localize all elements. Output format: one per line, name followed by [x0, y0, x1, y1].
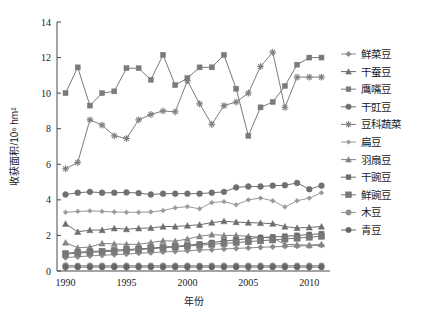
data-point-marker	[173, 83, 178, 88]
data-point-marker	[124, 66, 129, 71]
data-point-marker	[75, 190, 81, 196]
data-point-marker	[99, 249, 105, 255]
data-point-marker	[319, 55, 324, 60]
data-point-marker	[148, 246, 154, 252]
data-point-marker	[283, 205, 288, 210]
axes	[57, 22, 330, 271]
data-point-marker	[172, 191, 178, 197]
legend-label: 鲜豌豆	[361, 189, 391, 201]
data-point-marker	[160, 245, 166, 251]
data-point-marker	[160, 191, 166, 197]
data-point-marker	[209, 190, 215, 196]
legend-item-10[interactable]: 青豆	[341, 224, 381, 236]
series-3	[63, 180, 325, 197]
data-point-marker	[294, 235, 300, 241]
y-tick-label: 2	[46, 230, 51, 241]
data-point-marker	[257, 238, 263, 244]
data-point-marker	[63, 210, 68, 215]
data-point-marker	[346, 175, 351, 180]
legend-item-8[interactable]: 鲜豌豆	[341, 189, 391, 201]
data-point-marker	[233, 246, 239, 252]
legend-item-0[interactable]: 鲜菜豆	[341, 48, 391, 60]
data-point-marker	[63, 192, 69, 198]
data-point-marker	[173, 205, 178, 210]
data-point-marker	[319, 190, 324, 195]
data-point-marker	[245, 90, 252, 97]
y-tick-label: 6	[46, 159, 51, 170]
legend-label: 干豌豆	[361, 171, 391, 183]
data-point-marker	[209, 264, 215, 270]
legend-label: 青豆	[361, 224, 381, 236]
data-point-marker	[196, 242, 202, 248]
line-chart: 0246810121419901995200020052010年份收获面积/10…	[0, 0, 423, 321]
data-point-marker	[346, 227, 352, 233]
data-point-marker	[62, 221, 68, 227]
data-point-marker	[209, 200, 214, 205]
data-point-marker	[87, 103, 92, 108]
data-point-marker	[63, 91, 68, 96]
legend-item-7[interactable]: 干豌豆	[341, 171, 391, 183]
data-point-marker	[87, 249, 93, 255]
data-point-marker	[184, 77, 191, 84]
data-point-marker	[258, 105, 263, 110]
data-point-marker	[234, 86, 239, 91]
data-point-marker	[197, 65, 202, 70]
data-point-marker	[258, 264, 264, 270]
legend-item-5[interactable]: 扁豆	[341, 136, 381, 148]
legend-label: 鲜菜豆	[361, 48, 391, 60]
data-point-marker	[100, 91, 105, 96]
data-point-marker	[161, 208, 166, 213]
data-point-marker	[184, 243, 190, 249]
legend-item-6[interactable]: 羽扇豆	[341, 154, 391, 166]
data-point-marker	[136, 210, 141, 215]
data-point-marker	[346, 104, 352, 110]
data-point-marker	[282, 182, 288, 188]
legend-item-3[interactable]: 干豇豆	[341, 101, 391, 113]
data-point-marker	[282, 104, 289, 111]
y-axis-ticks: 02468101214	[41, 17, 61, 277]
data-point-marker	[306, 74, 313, 81]
data-point-marker	[112, 89, 117, 94]
data-point-marker	[75, 65, 80, 70]
legend-label: 木豆	[361, 206, 381, 218]
data-point-marker	[75, 250, 81, 256]
legend: 鲜菜豆干蚕豆鹰嘴豆干豇豆豆科蔬菜扁豆羽扇豆干豌豆鲜豌豆木豆青豆	[341, 48, 402, 236]
data-point-marker	[306, 186, 312, 192]
data-point-marker	[124, 210, 129, 215]
data-point-marker	[234, 202, 239, 207]
data-point-marker	[99, 190, 105, 196]
data-point-marker	[221, 52, 226, 57]
data-point-marker	[172, 108, 179, 115]
data-point-marker	[294, 264, 300, 270]
legend-label: 鹰嘴豆	[361, 83, 391, 95]
y-tick-label: 4	[46, 194, 51, 205]
series-10	[63, 264, 325, 270]
x-axis-title: 年份	[184, 295, 204, 307]
x-tick-label: 1990	[56, 277, 76, 288]
data-point-marker	[221, 264, 227, 270]
data-point-marker	[246, 133, 251, 138]
data-point-marker	[346, 87, 351, 92]
data-point-marker	[136, 66, 141, 71]
data-point-marker	[257, 63, 264, 70]
legend-item-4[interactable]: 豆科蔬菜	[341, 118, 402, 130]
data-point-marker	[346, 140, 351, 145]
data-point-marker	[62, 251, 68, 257]
legend-item-9[interactable]: 木豆	[341, 206, 381, 218]
data-point-marker	[258, 244, 264, 250]
data-point-marker	[111, 248, 117, 254]
legend-item-1[interactable]: 干蚕豆	[341, 66, 391, 78]
data-point-marker	[172, 244, 178, 250]
series-1	[62, 218, 324, 234]
data-point-marker	[124, 189, 130, 195]
data-point-marker	[87, 189, 93, 195]
data-point-marker	[208, 121, 215, 128]
legend-item-2[interactable]: 鹰嘴豆	[341, 83, 391, 95]
data-point-marker	[75, 264, 81, 270]
y-tick-label: 10	[41, 88, 51, 99]
data-point-marker	[282, 264, 288, 270]
data-point-marker	[99, 122, 106, 129]
data-point-marker	[221, 102, 228, 109]
data-point-marker	[161, 52, 166, 57]
data-point-marker	[222, 199, 227, 204]
